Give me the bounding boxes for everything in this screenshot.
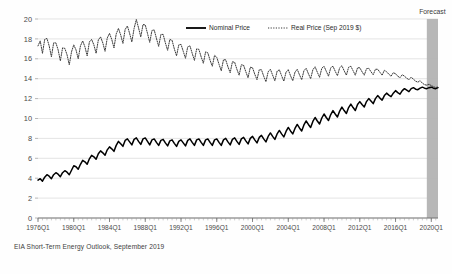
y-tick-label: 18 bbox=[24, 35, 32, 44]
y-tick-label: 12 bbox=[24, 94, 32, 103]
y-tick-label: 6 bbox=[28, 154, 32, 163]
x-tick-label: 2004Q1 bbox=[277, 224, 301, 232]
x-tick-label: 1976Q1 bbox=[26, 224, 50, 232]
x-tick-label: 2012Q1 bbox=[348, 224, 372, 232]
y-tick-label: 14 bbox=[24, 74, 32, 83]
price-line-chart: 024681012141618201976Q11980Q11984Q11988Q… bbox=[0, 0, 452, 274]
x-axis: 1976Q11980Q11984Q11988Q11992Q11996Q12000… bbox=[26, 218, 443, 232]
y-axis: 02468101214161820 bbox=[24, 15, 38, 223]
y-tick-label: 4 bbox=[28, 174, 32, 183]
x-tick-label: 1996Q1 bbox=[205, 224, 229, 232]
x-tick-label: 2020Q1 bbox=[420, 224, 444, 232]
x-tick-label: 1984Q1 bbox=[98, 224, 122, 232]
legend-label-nominal: Nominal Price bbox=[209, 24, 250, 31]
x-tick-label: 1988Q1 bbox=[134, 224, 158, 232]
y-tick-label: 20 bbox=[24, 15, 32, 24]
y-tick-label: 16 bbox=[24, 54, 32, 63]
x-tick-label: 1980Q1 bbox=[62, 224, 86, 232]
y-tick-label: 2 bbox=[28, 194, 32, 203]
legend-label-real: Real Price (Sep 2019 $) bbox=[291, 24, 361, 32]
forecast-label: Forecast bbox=[419, 8, 446, 15]
source-note: EIA Short-Term Energy Outlook, September… bbox=[14, 243, 164, 250]
y-tick-label: 0 bbox=[28, 214, 32, 223]
y-tick-label: 8 bbox=[28, 134, 32, 143]
x-tick-label: 2008Q1 bbox=[312, 224, 336, 232]
x-tick-label: 1992Q1 bbox=[169, 224, 193, 232]
x-tick-label: 2016Q1 bbox=[384, 224, 408, 232]
forecast-band bbox=[427, 19, 438, 218]
chart-figure: 024681012141618201976Q11980Q11984Q11988Q… bbox=[0, 0, 452, 274]
y-tick-label: 10 bbox=[24, 114, 32, 123]
x-tick-label: 2000Q1 bbox=[241, 224, 265, 232]
